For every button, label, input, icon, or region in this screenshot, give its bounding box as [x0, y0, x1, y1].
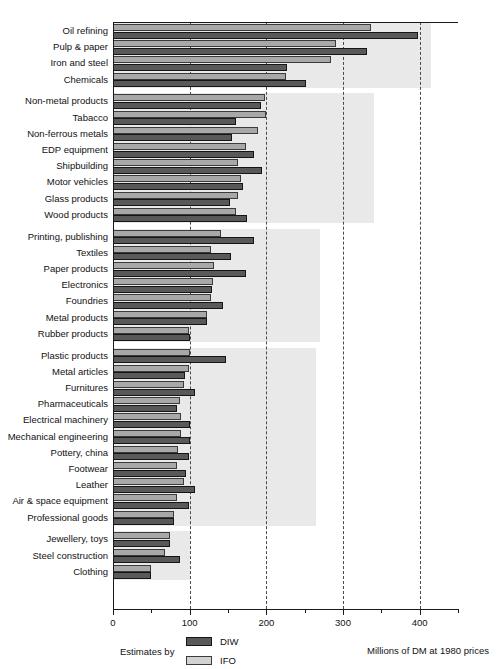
bar-ifo: [113, 159, 238, 166]
bar-ifo: [113, 494, 177, 501]
bar-ifo: [113, 192, 238, 199]
gridline: [266, 22, 267, 609]
category-label: Pharmaceuticals: [0, 399, 108, 409]
x-tick-major: [266, 609, 267, 615]
legend-item-ifo[interactable]: IFO: [186, 655, 236, 666]
x-tick-label: 200: [258, 617, 274, 628]
x-tick-minor: [228, 609, 229, 613]
bar-diw: [113, 64, 287, 71]
bar-diw: [113, 318, 207, 325]
bar-ifo: [113, 56, 331, 63]
legend-item-diw[interactable]: DIW: [186, 636, 238, 647]
category-label: Steel construction: [0, 551, 108, 561]
category-label: Non-metal products: [0, 96, 108, 106]
category-label: Pottery, china: [0, 448, 108, 458]
bar-diw: [113, 151, 254, 158]
legend-swatch-diw: [186, 637, 212, 646]
bar-diw: [113, 102, 261, 109]
gridline: [343, 22, 344, 609]
bar-ifo: [113, 24, 371, 31]
bar-diw: [113, 372, 185, 379]
category-label: Wood products: [0, 210, 108, 220]
x-tick-label: 0: [110, 617, 115, 628]
bar-diw: [113, 270, 246, 277]
bar-ifo: [113, 549, 165, 556]
x-tick-major: [420, 609, 421, 615]
bar-diw: [113, 199, 230, 206]
bar-diw: [113, 32, 418, 39]
legend-label-diw: DIW: [220, 636, 238, 647]
bar-ifo: [113, 478, 184, 485]
category-label: Plastic products: [0, 351, 108, 361]
bar-diw: [113, 405, 177, 412]
category-label: Air & space equipment: [0, 496, 108, 506]
bar-ifo: [113, 430, 181, 437]
bar-ifo: [113, 127, 258, 134]
category-label: Iron and steel: [0, 58, 108, 68]
bar-diw: [113, 356, 226, 363]
x-tick-minor: [151, 609, 152, 613]
category-label: Textiles: [0, 248, 108, 258]
bar-ifo: [113, 230, 221, 237]
bar-diw: [113, 118, 236, 125]
bar-diw: [113, 453, 189, 460]
category-label: Pulp & paper: [0, 42, 108, 52]
bar-diw: [113, 556, 180, 563]
bar-diw: [113, 389, 195, 396]
bar-diw: [113, 437, 190, 444]
category-label: Rubber products: [0, 329, 108, 339]
bar-ifo: [113, 462, 177, 469]
bar-diw: [113, 215, 247, 222]
bar-diw: [113, 502, 189, 509]
category-label: Leather: [0, 480, 108, 490]
bar-diw: [113, 237, 254, 244]
x-tick-major: [113, 609, 114, 615]
bar-ifo: [113, 111, 266, 118]
bar-ifo: [113, 397, 180, 404]
units-caption: Millions of DM at 1980 prices: [367, 645, 489, 656]
bar-diw: [113, 470, 186, 477]
category-label: Glass products: [0, 194, 108, 204]
category-label: Metal articles: [0, 367, 108, 377]
bar-ifo: [113, 327, 189, 334]
bar-ifo: [113, 73, 286, 80]
category-label: Footwear: [0, 464, 108, 474]
bar-ifo: [113, 381, 184, 388]
category-label: Electronics: [0, 280, 108, 290]
category-label: Jewellery, toys: [0, 534, 108, 544]
bar-ifo: [113, 511, 174, 518]
category-label: Metal products: [0, 313, 108, 323]
category-label: Clothing: [0, 567, 108, 577]
category-label: EDP equipment: [0, 145, 108, 155]
bar-diw: [113, 334, 190, 341]
legend-swatch-ifo: [186, 656, 212, 665]
category-label: Professional goods: [0, 513, 108, 523]
legend-label-ifo: IFO: [220, 655, 236, 666]
bar-ifo: [113, 262, 214, 269]
bar-ifo: [113, 446, 178, 453]
category-label: Non-ferrous metals: [0, 129, 108, 139]
bar-ifo: [113, 294, 211, 301]
category-label: Chemicals: [0, 75, 108, 85]
bar-ifo: [113, 565, 151, 572]
bar-diw: [113, 134, 232, 141]
bar-diw: [113, 572, 151, 579]
bar-ifo: [113, 175, 241, 182]
category-label: Oil refining: [0, 26, 108, 36]
bar-diw: [113, 253, 231, 260]
category-label: Mechanical engineering: [0, 432, 108, 442]
bar-ifo: [113, 532, 170, 539]
category-label: Shipbuilding: [0, 161, 108, 171]
category-label: Paper products: [0, 264, 108, 274]
x-tick-label: 400: [412, 617, 428, 628]
bar-ifo: [113, 143, 246, 150]
category-label: Printing, publishing: [0, 232, 108, 242]
category-label: Tabacco: [0, 113, 108, 123]
bar-ifo: [113, 40, 336, 47]
bar-ifo: [113, 349, 190, 356]
category-label: Electrical machinery: [0, 415, 108, 425]
x-tick-major: [343, 609, 344, 615]
bar-ifo: [113, 246, 211, 253]
x-tick-major: [190, 609, 191, 615]
category-label: Foundries: [0, 296, 108, 306]
